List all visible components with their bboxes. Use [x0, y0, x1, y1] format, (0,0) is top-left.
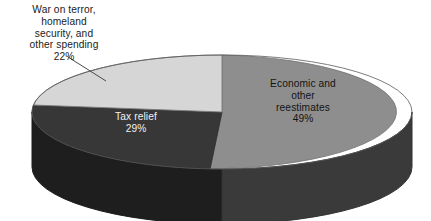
slice-label-tax-relief: Tax relief 29%: [86, 111, 186, 135]
slice-label-war-on-terror: War on terror, homeland security, and ot…: [4, 4, 124, 63]
slice-label-economic: Economic and other reestimates 49%: [243, 78, 363, 125]
slice-top-war-on-terror: [33, 55, 222, 112]
pie-chart-figure: War on terror, homeland security, and ot…: [0, 0, 431, 221]
